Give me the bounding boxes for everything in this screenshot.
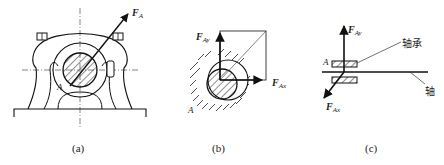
caption-c: (c) <box>365 142 378 155</box>
point-label-A: A <box>187 105 194 115</box>
force-label-FAy: FAy <box>195 31 211 44</box>
caption-a: (a) <box>72 142 85 155</box>
caption-b: (b) <box>212 142 225 155</box>
force-label-FAx: FAx <box>271 77 287 90</box>
force-label-FAx: FAx <box>325 101 341 114</box>
callout-line-bearing <box>357 42 401 63</box>
oil-cup <box>107 61 114 77</box>
callout-line-shaft <box>410 72 425 84</box>
panel-b: FAy FAx A (b) <box>187 31 287 155</box>
callout-bearing: 轴承 <box>402 37 422 49</box>
figure-canvas: FA A (a) <box>0 0 444 165</box>
panel-c: FAy FAx A 轴承 轴 (c) <box>322 24 435 155</box>
point-label-A: A <box>322 57 329 67</box>
point-label-A: A <box>56 82 63 92</box>
force-label-FA: FA <box>131 7 144 20</box>
housing-left-leg <box>44 63 58 109</box>
force-arrow-FA <box>70 14 128 86</box>
panel-a: FA A (a) <box>14 7 146 155</box>
callout-shaft: 轴 <box>425 85 435 97</box>
shaft-section <box>207 69 237 99</box>
force-arrow-FAx <box>324 72 344 98</box>
force-label-FAy: FAy <box>347 24 363 37</box>
